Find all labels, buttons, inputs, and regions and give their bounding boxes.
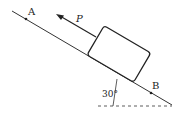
diagram-svg: A P B 30° <box>0 0 176 115</box>
label-b: B <box>152 80 159 91</box>
point-a-marker <box>25 18 28 21</box>
label-angle: 30° <box>102 89 118 99</box>
force-arrowhead-icon <box>56 14 64 20</box>
block <box>87 26 151 83</box>
incline-diagram: A P B 30° <box>0 0 176 115</box>
label-p: P <box>75 13 83 24</box>
label-a: A <box>27 6 36 17</box>
point-b-marker <box>150 92 153 95</box>
